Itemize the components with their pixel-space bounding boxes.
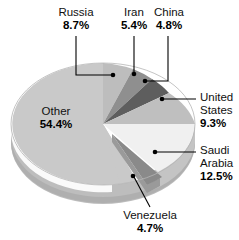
label-russia: Russia 8.7%: [43, 6, 109, 32]
label-russia-name: Russia: [43, 6, 109, 19]
pie-chart-figure: Russia 8.7% Iran 5.4% China 4.8% United …: [0, 0, 239, 240]
label-china: China 4.8%: [140, 6, 198, 32]
label-united-states: United States 9.3%: [200, 91, 233, 130]
label-venezuela: Venezuela 4.7%: [113, 209, 187, 235]
label-saudi-arabia-name: Saudi: [200, 144, 233, 157]
label-united-states-name: United: [200, 91, 233, 104]
label-united-states-pct: 9.3%: [200, 117, 233, 130]
label-venezuela-pct: 4.7%: [113, 222, 187, 235]
label-china-pct: 4.8%: [140, 19, 198, 32]
label-russia-pct: 8.7%: [43, 19, 109, 32]
label-saudi-arabia-name2: Arabia: [200, 157, 233, 170]
label-united-states-name2: States: [200, 104, 233, 117]
label-other-pct: 54.4%: [21, 118, 91, 131]
label-saudi-arabia-pct: 12.5%: [200, 170, 233, 183]
label-venezuela-name: Venezuela: [113, 209, 187, 222]
label-china-name: China: [140, 6, 198, 19]
label-other-name: Other: [21, 105, 91, 118]
label-saudi-arabia: Saudi Arabia 12.5%: [200, 144, 233, 183]
label-other: Other 54.4%: [21, 105, 91, 131]
